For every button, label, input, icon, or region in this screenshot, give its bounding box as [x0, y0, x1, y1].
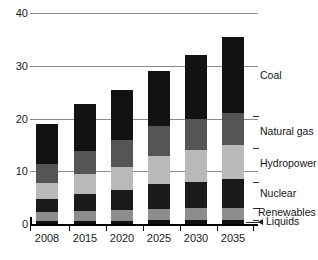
- x-tick-1: [69, 226, 70, 231]
- bar-2020: [111, 90, 133, 225]
- bar-segment-hydropower: [36, 183, 58, 199]
- x-tick-3: [143, 226, 144, 231]
- bar-segment-renewables: [74, 211, 96, 221]
- bar-segment-coal: [185, 55, 207, 118]
- bar-segment-hydropower: [74, 174, 96, 194]
- bar-2035: [222, 37, 244, 224]
- bar-segment-coal: [111, 90, 133, 140]
- bar-segment-renewables: [111, 210, 133, 221]
- legend-label-nuclear: Nuclear: [260, 188, 296, 199]
- x-tick-4: [180, 226, 181, 231]
- x-tick-5: [217, 226, 218, 231]
- y-axis-stub: [30, 217, 32, 226]
- bar-segment-hydropower: [148, 156, 170, 184]
- bar-segment-renewables: [36, 212, 58, 220]
- x-axis-line: [30, 224, 258, 226]
- bar-2015: [74, 104, 96, 224]
- x-tick-2: [106, 226, 107, 231]
- legend-connector-3: [253, 208, 259, 209]
- y-tick-label-40: 40: [4, 8, 28, 19]
- bar-segment-natural-gas: [36, 164, 58, 183]
- bar-segment-nuclear: [185, 182, 207, 208]
- x-tick-label-2025: 2025: [147, 232, 171, 245]
- legend-label-liquids: Liquids: [266, 216, 299, 227]
- legend-connector-0: [253, 116, 259, 117]
- legend-connector-2: [253, 182, 259, 183]
- bar-segment-hydropower: [111, 167, 133, 190]
- y-axis: 40 30 20 10 0: [0, 13, 28, 224]
- bar-2008: [36, 124, 58, 224]
- y-tick-label-30: 30: [4, 61, 28, 72]
- x-tick-0: [30, 226, 31, 231]
- stacked-bar-chart: 40 30 20 10 0 200820152020202520302035 C…: [0, 0, 318, 260]
- bar-segment-natural-gas: [148, 126, 170, 156]
- bar-segment-coal: [222, 37, 244, 113]
- gridline-40: [30, 13, 258, 14]
- bar-segment-natural-gas: [111, 140, 133, 167]
- liquids-connector: [246, 222, 259, 223]
- bar-segment-coal: [74, 104, 96, 150]
- y-tick-label-20: 20: [4, 114, 28, 125]
- x-tick-label-2015: 2015: [73, 232, 97, 245]
- legend-label-hydropower: Hydropower: [260, 158, 317, 169]
- bar-segment-nuclear: [222, 179, 244, 208]
- x-tick-label-2035: 2035: [221, 232, 245, 245]
- bar-segment-natural-gas: [222, 113, 244, 145]
- bar-segment-natural-gas: [74, 151, 96, 175]
- bar-segment-nuclear: [36, 199, 58, 213]
- plot-area: [30, 13, 258, 224]
- bar-segment-renewables: [222, 208, 244, 221]
- x-tick-label-2008: 2008: [35, 232, 59, 245]
- bar-segment-coal: [36, 124, 58, 164]
- x-tick-6: [253, 226, 254, 231]
- y-tick-label-0: 0: [4, 219, 28, 230]
- bar-segment-renewables: [185, 208, 207, 220]
- bar-segment-nuclear: [148, 184, 170, 208]
- bar-2030: [185, 55, 207, 224]
- bar-segment-coal: [148, 71, 170, 126]
- y-tick-label-10: 10: [4, 166, 28, 177]
- bar-segment-hydropower: [185, 150, 207, 182]
- bar-segment-hydropower: [222, 145, 244, 179]
- x-tick-label-2020: 2020: [110, 232, 134, 245]
- bar-2025: [148, 71, 170, 224]
- bar-segment-natural-gas: [185, 119, 207, 151]
- bar-segment-renewables: [148, 209, 170, 221]
- bar-segment-nuclear: [74, 194, 96, 211]
- legend-label-coal: Coal: [260, 70, 282, 81]
- legend-label-natural-gas: Natural gas: [260, 126, 314, 137]
- x-tick-label-2030: 2030: [184, 232, 208, 245]
- bar-segment-nuclear: [111, 190, 133, 211]
- legend-connector-1: [253, 148, 259, 149]
